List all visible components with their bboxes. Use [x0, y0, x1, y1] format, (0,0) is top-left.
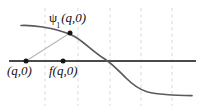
point-marker-psi-peak — [68, 31, 73, 36]
figure-canvas — [0, 0, 205, 110]
point-label-q0: (q,0) — [7, 64, 32, 77]
psi-subscript: 1 — [56, 21, 60, 30]
point-label-fq0: f(q,0) — [49, 64, 78, 77]
psi-arguments: (q,0) — [61, 10, 86, 25]
connector-line — [26, 33, 70, 61]
math-figure-container: ψ1(q,0) (q,0) f(q,0) — [0, 0, 205, 110]
psi-curve-label: ψ1(q,0) — [49, 11, 86, 28]
